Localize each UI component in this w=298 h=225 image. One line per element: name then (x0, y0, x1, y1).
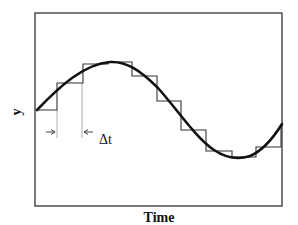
diagram-canvas: Δt Time y (0, 0, 298, 225)
plot-frame (35, 13, 282, 206)
arrow-right-icon (46, 130, 55, 135)
delta-t-label: Δt (99, 132, 112, 147)
x-axis-label: Time (144, 210, 175, 225)
arrow-left-icon (84, 130, 93, 135)
y-axis-label: y (9, 109, 24, 116)
continuous-curve (37, 62, 282, 158)
